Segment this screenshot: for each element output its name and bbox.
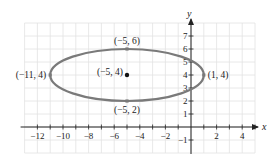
point-label: (−5, 4) bbox=[97, 67, 123, 78]
y-tick-label: 1 bbox=[183, 109, 188, 119]
y-tick-label: 2 bbox=[183, 96, 188, 106]
x-tick-label: −12 bbox=[30, 131, 44, 141]
vertex-point bbox=[49, 73, 52, 76]
ellipse-chart: −12−10−8−6−4−224−11234567 (−5, 6)(1, 4)(… bbox=[0, 0, 270, 162]
point-label: (−5, 2) bbox=[114, 105, 140, 116]
x-tick-label: −2 bbox=[161, 131, 171, 141]
x-axis-label: x bbox=[261, 121, 267, 132]
chart-canvas: −12−10−8−6−4−224−11234567 (−5, 6)(1, 4)(… bbox=[0, 0, 270, 162]
y-tick-label: 6 bbox=[183, 44, 188, 54]
x-tick-label: −4 bbox=[135, 131, 145, 141]
x-tick-label: −10 bbox=[56, 131, 71, 141]
point-label: (1, 4) bbox=[208, 70, 229, 81]
x-tick-label: 4 bbox=[240, 131, 245, 141]
vertex-point bbox=[125, 99, 128, 102]
x-tick-label: −8 bbox=[84, 131, 94, 141]
y-tick-label: −1 bbox=[178, 135, 188, 145]
center-point bbox=[125, 73, 129, 77]
vertex-point bbox=[125, 47, 128, 50]
x-tick-label: 2 bbox=[214, 131, 219, 141]
vertex-point bbox=[202, 73, 205, 76]
point-label: (−5, 6) bbox=[114, 36, 140, 47]
y-tick-label: 4 bbox=[183, 70, 188, 80]
y-tick-label: 7 bbox=[183, 31, 188, 41]
y-axis-label: y bbox=[186, 8, 192, 19]
point-label: (−11, 4) bbox=[16, 70, 46, 81]
x-tick-label: −6 bbox=[109, 131, 119, 141]
